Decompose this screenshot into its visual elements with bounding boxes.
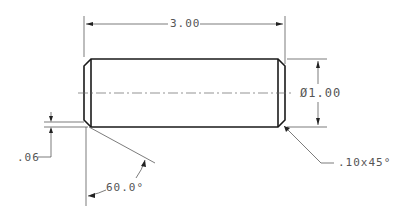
chamfer-note-label: .10x45°: [338, 157, 391, 168]
angle-label: 60.0°: [106, 182, 144, 193]
edge-dimension: [38, 112, 88, 157]
length-label: 3.00: [170, 18, 201, 29]
diameter-label: Ø1.00: [300, 87, 341, 99]
chamfer-leader: [284, 126, 334, 163]
technical-drawing: [0, 0, 398, 216]
angle-dimension: [86, 127, 155, 206]
edge-label: .06: [17, 152, 40, 163]
